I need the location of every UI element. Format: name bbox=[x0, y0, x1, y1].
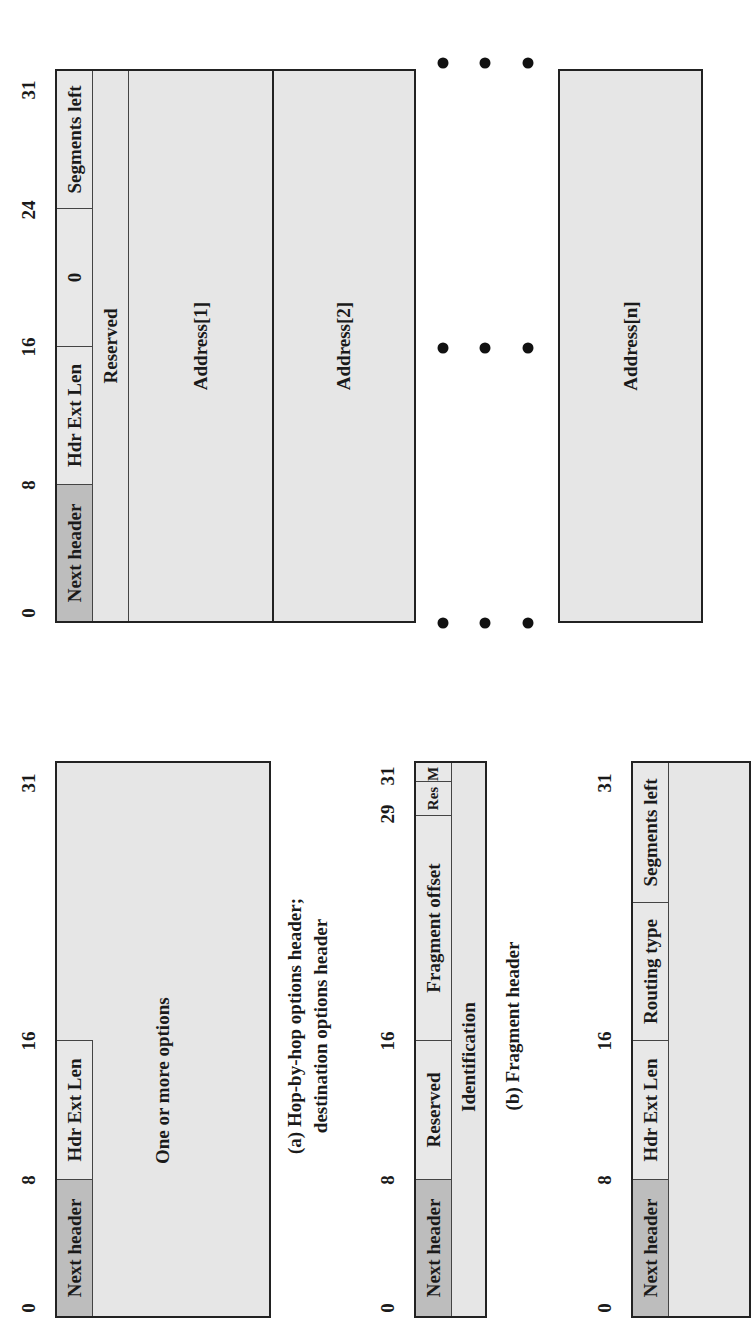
tick-8: 8 bbox=[18, 480, 40, 490]
options-field: One or more options bbox=[93, 763, 233, 1316]
tick-0: 0 bbox=[377, 1303, 399, 1313]
identification-label: Identification bbox=[458, 1002, 480, 1112]
next-header-label: Next header bbox=[423, 1199, 445, 1298]
dot bbox=[480, 58, 491, 69]
routing-type-field: 0 bbox=[57, 208, 93, 346]
res-field: Res bbox=[416, 781, 452, 815]
address-n-box: Address[n] bbox=[558, 69, 703, 623]
tick-16: 16 bbox=[594, 1032, 616, 1051]
tick-16: 16 bbox=[377, 1032, 399, 1051]
segments-left-label: Segments left bbox=[640, 778, 662, 886]
tick-31: 31 bbox=[18, 774, 40, 793]
hop-by-hop-box: Next header Hdr Ext Len One or more opti… bbox=[55, 761, 271, 1318]
tick-0: 0 bbox=[18, 1303, 40, 1313]
dot bbox=[480, 343, 491, 354]
reserved-field: Reserved bbox=[93, 71, 129, 621]
routing-type0-box-upper: Next header Hdr Ext Len 0 Segments left … bbox=[55, 69, 416, 623]
address-n-label: Address[n] bbox=[620, 301, 642, 390]
dot bbox=[523, 343, 534, 354]
address-n-field: Address[n] bbox=[560, 71, 701, 621]
tick-31: 31 bbox=[18, 81, 40, 100]
next-header-label: Next header bbox=[64, 504, 86, 603]
fragment-offset-field: Fragment offset bbox=[416, 815, 452, 1040]
fragment-box: Next header Reserved Fragment offset Res… bbox=[414, 761, 487, 1318]
caption-b: (b) Fragment header bbox=[500, 942, 526, 1111]
routing-type-label: Routing type bbox=[640, 919, 662, 1024]
next-header-field: Next header bbox=[633, 1179, 669, 1316]
routing-generic-box: Next header Hdr Ext Len Routing type Seg… bbox=[631, 761, 751, 1318]
hdr-ext-len-label: Hdr Ext Len bbox=[640, 1058, 662, 1161]
reserved-field: Reserved bbox=[416, 1040, 452, 1179]
address-2-field: Address[2] bbox=[274, 71, 414, 621]
reserved-label: Reserved bbox=[100, 309, 122, 384]
tick-16: 16 bbox=[18, 338, 40, 357]
tick-31: 31 bbox=[377, 767, 399, 786]
tick-24: 24 bbox=[18, 201, 40, 220]
caption-a: (a) Hop-by-hop options header; destinati… bbox=[282, 898, 334, 1154]
identification-field: Identification bbox=[452, 763, 485, 1316]
reserved-label: Reserved bbox=[423, 1073, 445, 1148]
dot bbox=[438, 343, 449, 354]
caption-b-text: (b) Fragment header bbox=[500, 942, 526, 1111]
hdr-ext-len-field: Hdr Ext Len bbox=[57, 346, 93, 484]
tick-0: 0 bbox=[18, 608, 40, 618]
segments-left-field: Segments left bbox=[57, 71, 93, 208]
m-flag-label: M bbox=[425, 767, 442, 781]
address-1-field: Address[1] bbox=[129, 71, 273, 621]
dot bbox=[523, 58, 534, 69]
caption-a-line2: destination options header bbox=[308, 898, 334, 1154]
address-2-label: Address[2] bbox=[333, 302, 355, 390]
segments-left-field: Segments left bbox=[633, 763, 669, 902]
next-header-field: Next header bbox=[57, 1179, 93, 1316]
dot bbox=[523, 618, 534, 629]
dot bbox=[480, 618, 491, 629]
hdr-ext-len-field: Hdr Ext Len bbox=[633, 1040, 669, 1179]
options-label: One or more options bbox=[152, 997, 174, 1164]
tick-0: 0 bbox=[594, 1303, 616, 1313]
hdr-ext-len-field: Hdr Ext Len bbox=[57, 1040, 93, 1179]
caption-a-line1: (a) Hop-by-hop options header; bbox=[282, 898, 308, 1154]
address-1-label: Address[1] bbox=[190, 302, 212, 390]
next-header-field: Next header bbox=[57, 484, 93, 621]
hdr-ext-len-label: Hdr Ext Len bbox=[64, 364, 86, 467]
tick-8: 8 bbox=[377, 1175, 399, 1185]
fragment-offset-label: Fragment offset bbox=[423, 863, 445, 992]
routing-type-value: 0 bbox=[64, 273, 86, 283]
hdr-ext-len-label: Hdr Ext Len bbox=[64, 1058, 86, 1161]
tick-16: 16 bbox=[18, 1032, 40, 1051]
next-header-label: Next header bbox=[64, 1199, 86, 1298]
res-label: Res bbox=[425, 787, 442, 810]
tick-31: 31 bbox=[594, 774, 616, 793]
next-header-field: Next header bbox=[416, 1179, 452, 1316]
dot bbox=[438, 58, 449, 69]
segments-left-label: Segments left bbox=[64, 85, 86, 193]
m-flag-field: M bbox=[416, 763, 452, 781]
next-header-label: Next header bbox=[640, 1199, 662, 1298]
routing-type-field: Routing type bbox=[633, 902, 669, 1040]
dot bbox=[438, 618, 449, 629]
tick-8: 8 bbox=[594, 1175, 616, 1185]
tick-8: 8 bbox=[18, 1175, 40, 1185]
tick-29: 29 bbox=[377, 805, 399, 824]
